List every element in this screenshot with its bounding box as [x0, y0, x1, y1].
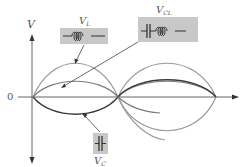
vc-component-box	[93, 133, 108, 154]
vcl-pointer-arrow	[64, 42, 138, 86]
vl-lower-lobe	[118, 97, 165, 140]
y-axis-label-text: V	[27, 18, 35, 31]
vc-label-sub: C	[101, 160, 106, 167]
vc-pointer-arrow	[85, 116, 100, 132]
vcl-curve	[33, 81, 216, 97]
vcl-label: VCL	[156, 5, 172, 18]
vc-label: VC	[94, 156, 106, 167]
voltage-waveform-diagram	[0, 0, 244, 167]
x-axis	[18, 95, 239, 100]
vl-pointer-arrow	[76, 45, 84, 61]
y-axis-down-arrow-icon	[30, 157, 35, 164]
y-axis-up-arrow-icon	[30, 34, 35, 41]
x-axis-arrow-icon	[232, 95, 239, 100]
vcl-lower-lobe	[118, 97, 160, 113]
zero-label: 0	[7, 92, 13, 102]
vcl-label-sub: CL	[163, 9, 172, 16]
vl-component-box	[60, 28, 108, 44]
vl-label: VL	[79, 16, 90, 29]
vcl-component-box	[138, 17, 198, 42]
zero-label-text: 0	[7, 91, 13, 102]
vl-label-sub: L	[86, 20, 90, 27]
y-axis	[30, 34, 35, 164]
y-axis-label: V	[27, 20, 35, 30]
vcl-pointer-arrowhead-icon	[61, 84, 66, 89]
